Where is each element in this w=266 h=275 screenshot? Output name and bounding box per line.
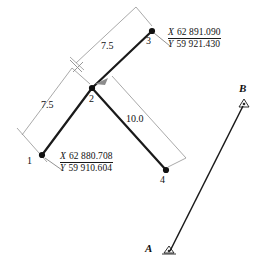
dim-line-2-4	[112, 76, 186, 158]
coordinate-x-line-point-1: X62 880.708	[60, 152, 113, 163]
dimension-label-1-2: 7.5	[41, 100, 54, 111]
point-label-1: 1	[27, 156, 32, 167]
coordinate-x-value-point-1: 62 880.708	[69, 151, 113, 161]
point-label-4: 4	[160, 175, 165, 186]
coordinate-x-line-point-3: X62 891.090	[168, 28, 221, 39]
dimension-label-2-4: 10.0	[126, 114, 144, 125]
coordinate-y-line-point-3: Y59 921.430	[168, 39, 221, 49]
station-label-B: B	[239, 83, 246, 95]
coordinate-x-value-point-3: 62 891.090	[177, 27, 221, 37]
dim-cross-ticks	[70, 60, 83, 72]
dimension-label-2-3: 7.5	[101, 41, 114, 52]
point-marker-4	[163, 167, 169, 173]
coordinate-y-line-point-1: Y59 910.604	[60, 163, 113, 173]
point-marker-3	[149, 28, 155, 34]
survey-diagram: 1 2 3 4 A B 7.5 7.5 10.0 X62 891.090 Y59…	[0, 0, 266, 275]
point-label-2: 2	[89, 94, 94, 105]
coordinate-y-value-point-1: 59 910.604	[68, 163, 112, 173]
point-label-3: 3	[146, 36, 151, 47]
leader-lines	[45, 33, 170, 170]
station-markers	[162, 99, 249, 254]
coordinate-block-point-1: X62 880.708 Y59 910.604	[60, 152, 113, 174]
station-label-A: A	[145, 243, 152, 255]
station-center-B	[243, 103, 245, 105]
segment-A-B	[170, 106, 243, 251]
coordinate-x-axis-point-3: X	[168, 27, 177, 37]
dim-ext-2-4-end	[168, 158, 186, 167]
dim-ext-2-3-end	[136, 7, 152, 26]
point-marker-1	[39, 152, 45, 158]
coordinate-x-axis-point-1: X	[60, 151, 69, 161]
coordinate-y-value-point-3: 59 921.430	[176, 39, 220, 49]
point-marker-2	[89, 85, 95, 91]
dim-cross-tick-b	[73, 62, 83, 72]
traverse-lines	[42, 31, 166, 170]
station-center-A	[168, 250, 170, 252]
dimension-lines	[17, 7, 186, 167]
coordinate-block-point-3: X62 891.090 Y59 921.430	[168, 28, 221, 50]
diagram-canvas	[0, 0, 266, 275]
